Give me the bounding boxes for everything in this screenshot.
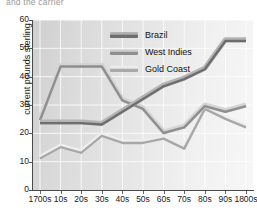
x-tick-label: 70s: [177, 195, 191, 204]
x-tick-label: 1700s: [28, 195, 51, 204]
legend-label: West Indies: [145, 47, 192, 57]
x-tick-mark: [164, 191, 165, 194]
x-tick-mark: [81, 191, 82, 194]
x-tick-mark: [40, 191, 41, 194]
legend-swatch-icon: [110, 49, 138, 55]
x-tick-mark: [205, 191, 206, 194]
x-tick-label: 30s: [95, 195, 109, 204]
x-tick-mark: [225, 191, 226, 194]
x-tick-label: 60s: [157, 195, 171, 204]
chart-legend: BrazilWest IndiesGold Coast: [110, 28, 220, 79]
legend-item: West Indies: [110, 45, 220, 58]
x-tick-mark: [184, 191, 185, 194]
x-tick-label: 1800s: [234, 195, 257, 204]
legend-swatch-icon: [110, 32, 138, 38]
x-tick-label: 50s: [136, 195, 150, 204]
legend-item: Gold Coast: [110, 62, 220, 75]
x-tick-label: 40s: [116, 195, 130, 204]
x-tick-mark: [122, 191, 123, 194]
x-tick-mark: [246, 191, 247, 194]
legend-label: Brazil: [145, 30, 168, 40]
x-tick-label: 20s: [74, 195, 88, 204]
legend-swatch-icon: [110, 66, 138, 72]
legend-item: Brazil: [110, 28, 220, 41]
x-tick-label: 90s: [219, 195, 233, 204]
x-tick-label: 10s: [54, 195, 68, 204]
x-tick-mark: [143, 191, 144, 194]
legend-label: Gold Coast: [145, 64, 190, 74]
x-tick-mark: [102, 191, 103, 194]
chart-figure: and the carrier current pounds sterling …: [0, 0, 257, 214]
x-tick-mark: [61, 191, 62, 194]
x-tick-label: 80s: [198, 195, 212, 204]
